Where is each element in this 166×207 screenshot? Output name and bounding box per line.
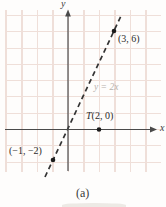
y-axis-arrow-icon: [65, 10, 71, 17]
point-label-t-2-0: T(2, 0): [86, 111, 113, 121]
x-axis-arrow-icon: [150, 127, 157, 133]
line-equation-label: y = 2x: [94, 83, 118, 93]
point-neg1-neg2: [51, 158, 56, 163]
point-3-6: [112, 29, 117, 34]
x-axis-label: x: [160, 123, 164, 133]
y-axis-label: y: [61, 0, 65, 9]
cropped-artifact: [62, 203, 126, 207]
figure-caption: (a): [76, 186, 89, 200]
dashed-line-y-equals-2x: [45, 16, 121, 177]
coordinate-plane-figure: y x (3, 6) y = 2x T(2, 0) (−1, −2) (a): [0, 0, 166, 207]
plot-canvas: [0, 0, 166, 207]
point-label-t-rest: (2, 0): [92, 110, 114, 121]
point-t-2-0: [97, 127, 102, 132]
point-label-3-6: (3, 6): [118, 34, 140, 44]
point-label-neg1-neg2: (−1, −2): [9, 146, 42, 156]
